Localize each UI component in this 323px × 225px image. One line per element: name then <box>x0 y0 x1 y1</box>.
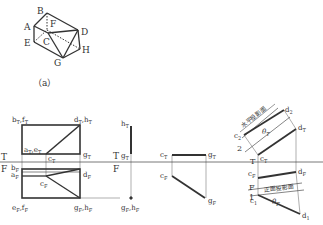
svg-text:cT: cT <box>48 155 56 164</box>
aux-number-1: 1 <box>249 193 254 202</box>
aux-axis-t-label: T <box>250 157 256 166</box>
orthographic-projection-diagram: A B C D E F G H （a） bT,fT dT,hT aT,eT gT… <box>0 0 323 225</box>
svg-text:θF: θF <box>272 198 280 207</box>
cg-edge-view <box>172 155 206 198</box>
svg-text:dT: dT <box>298 124 306 133</box>
vertex-c-label: C <box>43 37 50 47</box>
gh-axis-f-label: F <box>113 164 119 174</box>
gh-edge-view <box>130 126 132 199</box>
aux-axis-f-label: F <box>249 183 255 192</box>
svg-text:c2: c2 <box>234 132 241 141</box>
svg-text:gF,hF: gF,hF <box>74 204 93 213</box>
svg-text:cF: cF <box>160 172 168 181</box>
axis-t-label: T <box>1 152 7 162</box>
svg-text:d1: d1 <box>302 212 310 221</box>
svg-text:aT,eT: aT,eT <box>24 146 42 155</box>
isometric-vertex-labels: A B C D E F G H <box>23 6 90 68</box>
aux-number-2: 2 <box>237 144 242 153</box>
svg-text:d2: d2 <box>285 106 293 115</box>
svg-text:bT,fT: bT,fT <box>12 116 29 125</box>
svg-text:gF: gF <box>208 197 216 206</box>
vertex-h-label: H <box>82 45 90 55</box>
vertex-a-label: A <box>23 22 31 32</box>
svg-text:gT: gT <box>83 151 91 160</box>
vertex-g-label: G <box>54 58 61 68</box>
cg-edge-labels: cT gT cF gF <box>160 151 216 206</box>
frontal-projection-plane-label: 正面投影面 <box>263 182 294 194</box>
gh-axis-t-label: T <box>113 151 119 161</box>
svg-text:gF,hF: gF,hF <box>121 204 140 213</box>
vertex-f-label: F <box>50 19 56 29</box>
figure-a-caption: （a） <box>33 78 56 88</box>
svg-text:gT: gT <box>121 152 129 161</box>
svg-text:cF: cF <box>40 180 48 189</box>
svg-text:gT: gT <box>208 151 216 160</box>
svg-text:cF: cF <box>248 170 256 179</box>
vertex-e-label: E <box>24 38 31 48</box>
axis-f-label: F <box>1 164 7 174</box>
svg-text:dF: dF <box>298 168 306 177</box>
isometric-block-figure <box>34 13 80 58</box>
block-projection-view <box>22 125 120 198</box>
svg-text:hT: hT <box>121 120 130 129</box>
svg-text:eF,fF: eF,fF <box>12 204 28 213</box>
svg-text:θT: θT <box>262 128 270 137</box>
svg-text:cT: cT <box>160 151 168 160</box>
vertex-d-label: D <box>81 27 88 37</box>
svg-text:cT: cT <box>260 155 268 164</box>
horizontal-projection-plane-label: 水平投影面 <box>239 105 268 130</box>
vertex-b-label: B <box>37 6 44 16</box>
svg-text:dT,hT: dT,hT <box>74 116 93 125</box>
svg-text:dF: dF <box>83 171 91 180</box>
